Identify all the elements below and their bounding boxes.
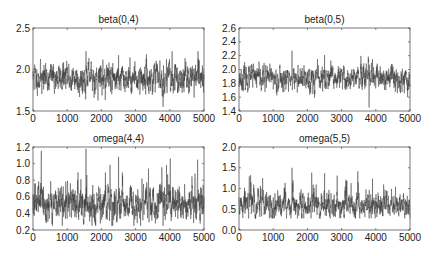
x-tick-label: 1000 — [262, 113, 285, 124]
x-tick-label: 5000 — [399, 113, 422, 124]
y-tick-label: 2.0 — [222, 64, 236, 75]
y-tick-label: 0.0 — [222, 225, 236, 236]
y-tick-label: 1.4 — [222, 106, 236, 117]
x-tick-label: 1000 — [56, 232, 79, 243]
x-tick-label: 0 — [30, 113, 36, 124]
panel-title: omega(5,5) — [299, 133, 350, 144]
y-tick-label: 2.2 — [222, 50, 236, 61]
trace-line — [239, 168, 410, 219]
panel-title: beta(0,4) — [98, 14, 138, 25]
x-tick-label: 1000 — [56, 113, 79, 124]
x-tick-label: 5000 — [193, 113, 216, 124]
y-tick-label: 0.4 — [16, 208, 30, 219]
y-tick-label: 2.5 — [16, 23, 30, 34]
y-tick-label: 0.8 — [16, 175, 30, 186]
x-tick-label: 4000 — [159, 113, 182, 124]
x-tick-label: 0 — [236, 113, 242, 124]
chart-canvas: beta(0,4)0100020003000400050001.52.02.5b… — [0, 0, 436, 256]
y-tick-label: 1.0 — [222, 183, 236, 194]
chart-panel-beta-0-5-: beta(0,5)0100020003000400050001.41.61.82… — [222, 14, 421, 124]
x-tick-label: 4000 — [159, 232, 182, 243]
chart-panel-omega-5-5-: omega(5,5)0100020003000400050000.00.51.0… — [222, 133, 421, 243]
panel-title: omega(4,4) — [93, 133, 144, 144]
x-tick-label: 3000 — [330, 113, 353, 124]
y-tick-label: 1.8 — [222, 78, 236, 89]
x-tick-label: 2000 — [90, 232, 113, 243]
x-tick-label: 3000 — [124, 113, 147, 124]
x-tick-label: 4000 — [365, 113, 388, 124]
y-tick-label: 1.5 — [222, 162, 236, 173]
y-tick-label: 0.2 — [16, 225, 30, 236]
y-tick-label: 1.5 — [16, 106, 30, 117]
x-tick-label: 3000 — [330, 232, 353, 243]
x-tick-label: 0 — [236, 232, 242, 243]
x-tick-label: 2000 — [90, 113, 113, 124]
trace-line — [239, 51, 410, 108]
y-tick-label: 2.0 — [16, 64, 30, 75]
x-tick-label: 0 — [30, 232, 36, 243]
y-tick-label: 1.0 — [16, 158, 30, 169]
x-tick-label: 5000 — [193, 232, 216, 243]
chart-panel-beta-0-4-: beta(0,4)0100020003000400050001.52.02.5 — [16, 14, 215, 124]
trace-line — [33, 149, 204, 226]
y-tick-label: 0.6 — [16, 191, 30, 202]
x-tick-label: 2000 — [296, 113, 319, 124]
chart-panel-omega-4-4-: omega(4,4)0100020003000400050000.20.40.6… — [16, 133, 215, 243]
y-tick-label: 2.0 — [222, 142, 236, 153]
x-tick-label: 1000 — [262, 232, 285, 243]
panel-title: beta(0,5) — [304, 14, 344, 25]
y-tick-label: 1.6 — [222, 92, 236, 103]
x-tick-label: 5000 — [399, 232, 422, 243]
y-tick-label: 2.4 — [222, 36, 236, 47]
x-tick-label: 4000 — [365, 232, 388, 243]
trace-line — [33, 51, 204, 107]
y-tick-label: 2.6 — [222, 23, 236, 34]
y-tick-label: 1.2 — [16, 142, 30, 153]
x-tick-label: 2000 — [296, 232, 319, 243]
y-tick-label: 0.5 — [222, 204, 236, 215]
x-tick-label: 3000 — [124, 232, 147, 243]
